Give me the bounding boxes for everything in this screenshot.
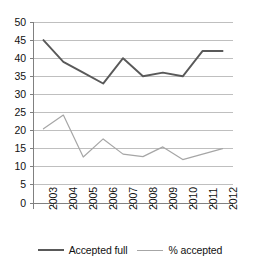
x-tick-label: 2003: [48, 187, 59, 210]
y-tick-label: 35: [2, 71, 26, 82]
y-tick-label: 20: [2, 125, 26, 136]
x-tick-label: 2004: [68, 187, 79, 210]
series-line-2: [43, 115, 222, 160]
y-tick-label: 45: [2, 35, 26, 46]
series-line-1: [43, 40, 222, 83]
chart-legend: Accepted full% accepted: [0, 238, 260, 262]
legend-label: % accepted: [168, 245, 222, 256]
axis-lines: [30, 22, 233, 209]
legend-entry-1[interactable]: Accepted full: [38, 245, 128, 256]
legend-label: Accepted full: [69, 245, 128, 256]
line-chart: 05101520253035404550 2003200420052006200…: [0, 0, 260, 262]
x-tick-label: 2009: [168, 187, 179, 210]
x-tick-label: 2012: [228, 187, 239, 210]
x-tick-label: 2008: [148, 187, 159, 210]
y-tick-label: 0: [2, 198, 26, 209]
legend-line-swatch: [137, 250, 163, 251]
y-tick-label: 15: [2, 143, 26, 154]
y-tick-label: 5: [2, 179, 26, 190]
legend-line-swatch: [38, 249, 64, 251]
x-tick-label: 2007: [128, 187, 139, 210]
y-tick-label: 50: [2, 17, 26, 28]
x-tick-label: 2011: [208, 188, 219, 210]
x-tick-label: 2010: [188, 187, 199, 210]
y-tick-label: 30: [2, 89, 26, 100]
y-tick-label: 10: [2, 161, 26, 172]
x-tick-label: 2006: [108, 187, 119, 210]
y-tick-label: 25: [2, 107, 26, 118]
y-tick-label: 40: [2, 53, 26, 64]
legend-entry-2[interactable]: % accepted: [137, 245, 222, 256]
gridlines: [34, 22, 233, 203]
x-tick-label: 2005: [88, 187, 99, 210]
